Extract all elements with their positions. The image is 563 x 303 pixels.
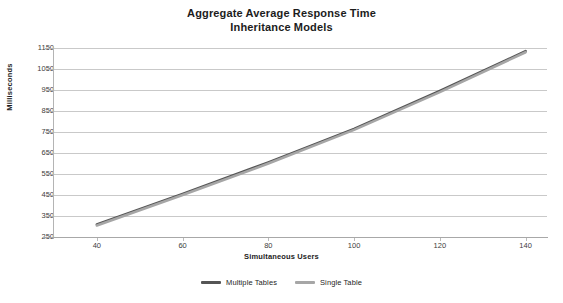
plot-area [54,48,547,237]
y-tick-mark [45,111,53,112]
legend-swatch-icon [201,281,221,284]
x-tick-mark [268,238,269,241]
x-tick-mark [97,238,98,241]
y-tick-mark [45,90,53,91]
y-axis-line [53,46,54,239]
y-tick-mark [45,174,53,175]
x-tick-label: 80 [248,241,288,250]
y-tick-mark [45,216,53,217]
gridline [54,90,547,91]
x-axis-line [44,237,548,238]
x-tick-mark [440,238,441,241]
y-tick-mark [45,195,53,196]
gridline [54,153,547,154]
chart-title-line-1: Aggregate Average Response Time [0,6,563,20]
x-tick-mark [526,238,527,241]
x-tick-label: 60 [163,241,203,250]
y-tick-mark [45,48,53,49]
legend-label: Multiple Tables [226,278,277,287]
chart-title: Aggregate Average Response Time Inherita… [0,6,563,34]
y-tick-mark [45,153,53,154]
x-tick-label: 40 [77,241,117,250]
y-tick-mark [45,69,53,70]
chart-container: Aggregate Average Response Time Inherita… [0,0,563,303]
gridline [54,48,547,49]
gridline [54,132,547,133]
legend-swatch-icon [295,281,315,284]
chart-title-line-2: Inheritance Models [0,20,563,34]
x-tick-label: 100 [334,241,374,250]
chart-legend: Multiple TablesSingle Table [0,278,563,287]
gridline [54,69,547,70]
gridline [54,195,547,196]
gridline [54,174,547,175]
legend-item[interactable]: Single Table [295,278,362,287]
gridline [54,111,547,112]
x-tick-label: 140 [506,241,546,250]
x-tick-mark [354,238,355,241]
legend-item[interactable]: Multiple Tables [201,278,277,287]
x-axis-title: Simultaneous Users [0,252,563,261]
x-tick-label: 120 [420,241,460,250]
x-tick-mark [183,238,184,241]
legend-label: Single Table [320,278,362,287]
gridline [54,216,547,217]
y-tick-mark [45,132,53,133]
